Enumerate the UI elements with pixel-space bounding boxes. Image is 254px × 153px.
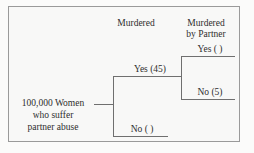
branch-line-murdered-yes [113, 76, 182, 77]
root-node-label-line3: partner abuse [14, 122, 92, 133]
branch-line-partner-no [181, 99, 235, 100]
branch-line-murdered-no [113, 136, 168, 137]
split2-vertical-line [181, 56, 182, 99]
column-header-murdered-by-partner-line2: by Partner [177, 29, 235, 40]
root-node-label-line1: 100,000 Women [14, 98, 92, 109]
branch-label-murdered-yes: Yes (45) [120, 64, 180, 75]
root-stem-line [94, 104, 114, 105]
column-header-murdered-by-partner-line1: Murdered [177, 18, 235, 29]
branch-label-murdered-no: No ( ) [116, 124, 168, 135]
diagram-canvas: Murdered Murdered by Partner 100,000 Wom… [0, 0, 254, 153]
branch-label-partner-no: No (5) [184, 87, 236, 98]
root-node-label-line2: who suffer [14, 110, 92, 121]
branch-label-partner-yes: Yes ( ) [184, 44, 236, 55]
split1-vertical-line [113, 76, 114, 136]
column-header-murdered: Murdered [108, 18, 164, 29]
branch-line-partner-yes [181, 56, 235, 57]
